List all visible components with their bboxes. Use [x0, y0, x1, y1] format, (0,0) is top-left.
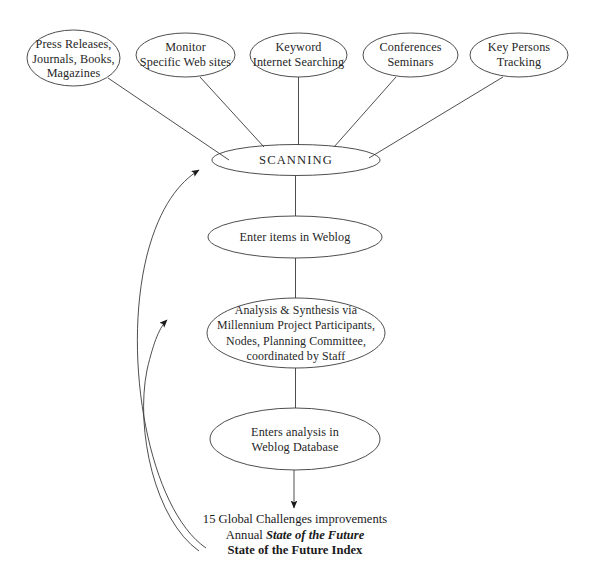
ellipse-conferences-seminars — [363, 33, 458, 77]
ellipse-keyword-searching — [250, 33, 347, 77]
diagram-canvas: Press Releases, Journals, Books, Magazin… — [0, 0, 597, 578]
connector-keypersons-to-scanning — [369, 77, 503, 158]
outcome-line-1: 15 Global Challenges improvements — [165, 512, 425, 528]
ellipse-monitor-web-sites — [136, 33, 235, 77]
connector-conferences-to-scanning — [334, 77, 396, 147]
ellipse-analysis-synthesis — [207, 298, 385, 368]
ellipse-key-persons-tracking — [470, 33, 568, 77]
feedback-arrow-to-scanning — [137, 170, 206, 548]
connector-press-to-scanning — [108, 78, 229, 160]
outcome-line-2: Annual State of the Future — [165, 528, 425, 544]
outcome-line-3: State of the Future Index — [165, 543, 425, 559]
ellipse-enters-analysis — [210, 408, 380, 470]
connector-monitor-to-scanning — [200, 77, 264, 147]
ellipse-scanning — [212, 145, 380, 176]
outcome-line-2-prefix: Annual — [226, 528, 266, 542]
outcome-text-block: 15 Global Challenges improvements Annual… — [165, 512, 425, 559]
ellipse-enter-items — [208, 216, 382, 258]
ellipse-press-releases — [27, 30, 120, 86]
outcome-line-2-emphasis: State of the Future — [266, 528, 364, 542]
flowchart-graphics — [0, 0, 597, 578]
